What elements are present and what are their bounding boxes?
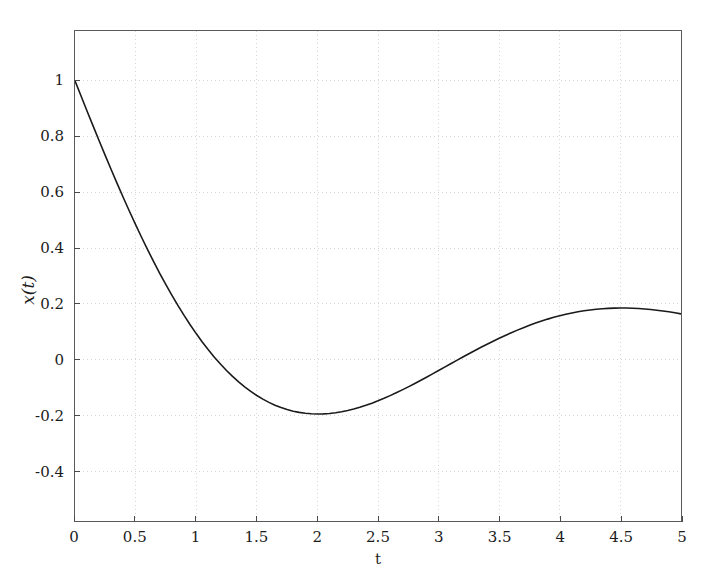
- y-tick-label: -0.2: [0, 408, 64, 423]
- x-tick-label: 2.5: [366, 530, 390, 545]
- y-tick-label: 0.4: [0, 241, 64, 256]
- x-tick-mark: [682, 516, 683, 522]
- x-tick-mark: [195, 516, 196, 522]
- x-tick-label: 0: [69, 530, 79, 545]
- x-tick-label: 4.5: [609, 530, 633, 545]
- y-tick-mark: [74, 303, 80, 304]
- figure-canvas: 00.511.522.533.544.5510.80.60.40.20-0.2-…: [0, 0, 712, 579]
- x-tick-mark: [317, 516, 318, 522]
- y-tick-label: -0.4: [0, 464, 64, 479]
- x-tick-label: 1.5: [244, 530, 268, 545]
- x-tick-label: 5: [677, 530, 687, 545]
- y-tick-mark: [74, 415, 80, 416]
- x-tick-label: 3: [434, 530, 444, 545]
- y-tick-mark: [74, 248, 80, 249]
- y-tick-mark: [74, 359, 80, 360]
- y-tick-mark: [74, 471, 80, 472]
- x-tick-mark: [256, 516, 257, 522]
- plot-area: [74, 30, 682, 522]
- y-tick-label: 0: [0, 352, 64, 367]
- y-tick-label: 1: [0, 73, 64, 88]
- x-tick-label: 2: [312, 530, 322, 545]
- y-tick-mark: [74, 136, 80, 137]
- x-tick-label: 1: [191, 530, 201, 545]
- y-tick-label: 0.8: [0, 129, 64, 144]
- y-tick-mark: [74, 192, 80, 193]
- x-tick-mark: [74, 516, 75, 522]
- x-tick-mark: [499, 516, 500, 522]
- x-tick-label: 0.5: [123, 530, 147, 545]
- y-tick-mark: [74, 80, 80, 81]
- x-tick-label: 4: [556, 530, 566, 545]
- series-line-0: [75, 81, 681, 414]
- y-axis-label: x(t): [20, 275, 37, 305]
- x-tick-mark: [438, 516, 439, 522]
- x-tick-mark: [560, 516, 561, 522]
- x-tick-mark: [621, 516, 622, 522]
- x-tick-mark: [134, 516, 135, 522]
- x-tick-mark: [378, 516, 379, 522]
- x-tick-label: 3.5: [488, 530, 512, 545]
- x-axis-label: t: [375, 552, 381, 567]
- y-tick-label: 0.6: [0, 185, 64, 200]
- data-curve-layer: [75, 31, 681, 521]
